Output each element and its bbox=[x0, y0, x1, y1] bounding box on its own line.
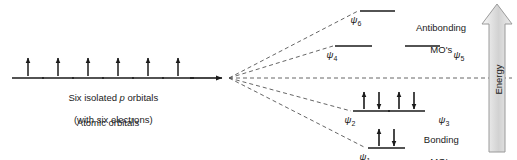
bonding-label: Bonding MO's bbox=[400, 124, 472, 160]
atomic-orbitals-group bbox=[12, 58, 194, 78]
correlation-line-psi2 bbox=[229, 78, 351, 111]
p-orbital-4 bbox=[102, 58, 134, 78]
antibonding-line-1: Antibonding bbox=[416, 22, 466, 33]
energy-axis-label: Energy bbox=[493, 51, 504, 109]
mo-level-psi3 bbox=[388, 92, 425, 111]
p-orbital-6 bbox=[162, 58, 194, 78]
p-orbital-3 bbox=[72, 58, 104, 78]
correlation-line-psi6 bbox=[229, 11, 358, 78]
atomic-orbitals-title: Atomic orbitals bbox=[38, 118, 178, 129]
psi6-label: ψ6 bbox=[340, 4, 361, 39]
caption-line-1: Six isolated p orbitals bbox=[68, 92, 158, 103]
p-orbital-5 bbox=[132, 58, 164, 78]
psi2-label: ψ2 bbox=[334, 104, 355, 139]
psi1-label: ψ1 bbox=[349, 141, 370, 160]
bonding-line-1: Bonding bbox=[424, 134, 459, 145]
bonding-line-2: MO's bbox=[430, 156, 452, 160]
mo-level-psi2 bbox=[353, 92, 390, 111]
p-orbital-2 bbox=[42, 58, 74, 78]
p-orbital-1 bbox=[12, 58, 44, 78]
mo-diagram-canvas: Six isolated p orbitals (with six electr… bbox=[0, 0, 517, 160]
antibonding-line-2: MO's bbox=[430, 44, 452, 55]
psi4-label: ψ4 bbox=[316, 39, 337, 74]
antibonding-label: Antibonding MO's bbox=[396, 12, 476, 67]
